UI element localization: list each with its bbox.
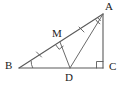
segment-ba <box>19 14 103 68</box>
vertex-label-b: B <box>5 60 12 71</box>
segment-md <box>60 42 70 68</box>
figure-canvas <box>0 0 127 87</box>
vertex-label-m: M <box>52 28 62 39</box>
vertex-label-d: D <box>65 72 73 83</box>
geometry-figure: A B C D M <box>0 0 127 87</box>
vertex-label-c: C <box>109 61 116 72</box>
angle-arc-b-icon <box>31 61 33 68</box>
right-angle-c-icon <box>97 62 104 69</box>
vertex-label-a: A <box>105 1 113 12</box>
